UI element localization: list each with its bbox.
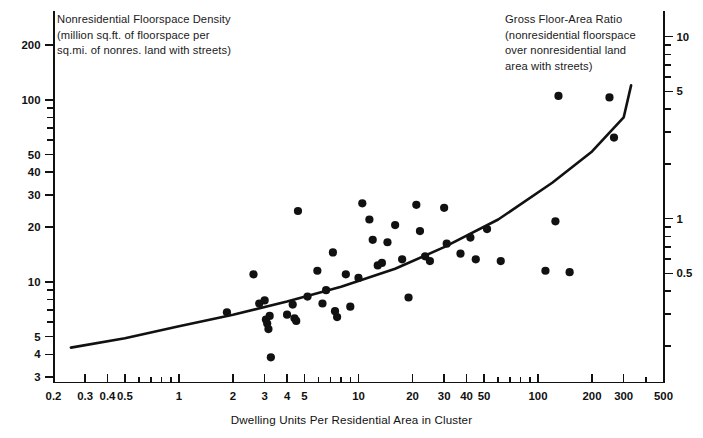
data-point [416,227,424,235]
data-points-group [223,92,618,362]
data-point [610,133,618,141]
data-point [261,296,269,304]
left-axis-caption: Nonresidential Floorspace Density (milli… [57,12,231,59]
x-tick-label: 4 [284,390,290,402]
y-tick-label-left: 5 [0,331,41,343]
data-point [358,199,366,207]
data-point [249,270,257,278]
y-tick-label-right: 1 [677,213,683,225]
data-point [440,204,448,212]
x-tick-label: 1 [176,390,182,402]
data-point [313,267,321,275]
data-point [346,303,354,311]
data-point [443,240,451,248]
x-tick-label: 200 [583,390,602,402]
data-point [318,299,326,307]
data-point [398,255,406,263]
x-tick-label: 20 [406,390,419,402]
data-point [303,292,311,300]
x-tick-label: 0.5 [117,390,133,402]
data-point [551,217,559,225]
y-tick-label-left: 20 [0,221,41,233]
y-tick-label-left: 40 [0,166,41,178]
y-tick-label-right: 0.5 [677,267,693,279]
data-point [354,274,362,282]
x-tick-label: 2 [230,390,236,402]
y-tick-label-left: 200 [0,39,41,51]
data-point [378,259,386,267]
data-point [342,270,350,278]
x-tick-label: 0.3 [77,390,93,402]
x-tick-label: 0.2 [46,390,62,402]
data-point [267,353,275,361]
data-point [333,313,341,321]
data-point [497,257,505,265]
y-tick-label-left: 4 [0,348,41,360]
data-point [541,267,549,275]
x-tick-label: 30 [438,390,451,402]
data-point [283,311,291,319]
x-tick-label: 40 [460,390,473,402]
y-tick-label-left: 50 [0,149,41,161]
y-tick-label-right: 5 [677,85,683,97]
data-point [329,248,337,256]
x-tick-label: 3 [261,390,267,402]
data-point [412,201,420,209]
data-point [289,300,297,308]
data-point [456,249,464,257]
data-point [223,308,231,316]
data-point [483,225,491,233]
data-point [426,257,434,265]
data-point [294,207,302,215]
y-tick-label-right: 10 [677,31,690,43]
data-point [466,233,474,241]
data-point [391,221,399,229]
data-point [365,215,373,223]
data-point [383,238,391,246]
y-tick-label-left: 10 [0,276,41,288]
data-point [566,268,574,276]
x-tick-label: 300 [614,390,633,402]
x-tick-label: 5 [301,390,307,402]
x-axis-label: Dwelling Units Per Residential Area in C… [0,413,703,426]
data-point [554,92,562,100]
y-tick-label-left: 3 [0,371,41,383]
x-tick-label: 10 [352,390,365,402]
data-point [264,325,272,333]
y-tick-label-left: 30 [0,189,41,201]
data-point [292,317,300,325]
data-point [369,236,377,244]
x-tick-label: 0.4 [100,390,116,402]
axis-ticks-group [45,37,673,383]
data-point [472,255,480,263]
data-point [322,286,330,294]
data-point [266,312,274,320]
x-tick-label: 50 [478,390,491,402]
x-tick-label: 500 [654,390,673,402]
chart-container: Nonresidential Floorspace Density (milli… [0,0,703,438]
data-point [404,293,412,301]
right-axis-caption: Gross Floor-Area Ratio (nonresidential f… [505,12,636,74]
data-point [605,93,613,101]
y-tick-label-left: 100 [0,94,41,106]
x-tick-label: 100 [529,390,548,402]
